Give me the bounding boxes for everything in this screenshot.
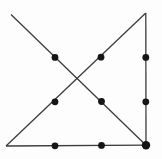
dot-bottom-right [142,141,150,149]
dot-center [98,98,105,105]
dot-bottom-left [52,142,59,149]
dot-middle-left [52,98,59,105]
diagonal-ascending-line [6,13,146,146]
dot-bottom-middle [98,142,105,149]
nine-dot-puzzle-figure [0,0,162,159]
bottom-horizontal-line [6,145,146,146]
puzzle-lines-and-dots-canvas [0,0,162,159]
dot-middle-right [142,98,149,105]
dot-top-right [142,54,149,61]
dot-top-middle [98,54,105,61]
dot-top-left [52,54,59,61]
diagonal-descending-line [11,15,146,146]
